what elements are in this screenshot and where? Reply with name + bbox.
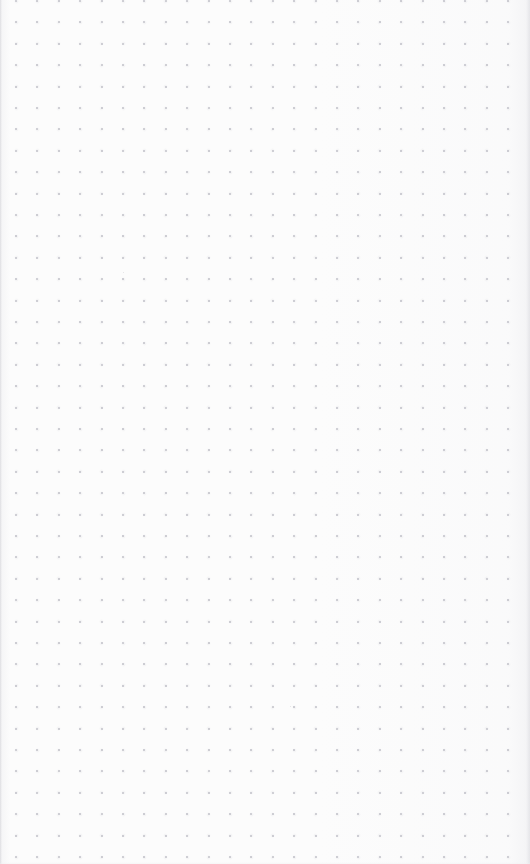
paper-surface	[0, 0, 530, 864]
dotted-grid-page	[0, 0, 530, 864]
